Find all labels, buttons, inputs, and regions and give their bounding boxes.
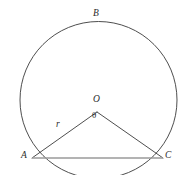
- segment-radius-oc: [97, 112, 163, 158]
- point-label-a: A: [21, 151, 27, 161]
- angle-label-theta: θ: [92, 111, 96, 120]
- segment-radius-oa: [32, 112, 97, 158]
- radius-label-r: r: [56, 120, 60, 130]
- point-label-c: C: [165, 151, 171, 161]
- point-label-o: O: [93, 95, 100, 105]
- point-label-b: B: [93, 9, 99, 19]
- figure-canvas: [0, 0, 191, 175]
- geometry-figure: B O θ r A C: [0, 0, 191, 175]
